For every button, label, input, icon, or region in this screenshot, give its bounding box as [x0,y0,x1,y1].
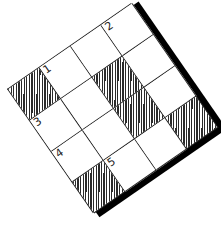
crossword-grid: 1 2 3 4 5 [7,3,217,213]
clue-number: 3 [32,115,44,128]
clue-number: 4 [53,146,65,159]
clue-number: 2 [103,20,115,33]
clue-number: 5 [106,156,118,169]
clue-number: 1 [41,63,53,76]
crossword-puzzle: 1 2 3 4 5 [7,3,217,213]
